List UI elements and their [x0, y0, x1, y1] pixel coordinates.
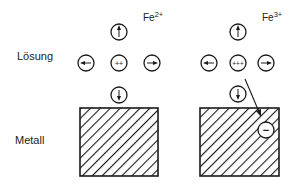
electron-icon: −: [258, 122, 274, 138]
svg-text:+++: +++: [232, 60, 244, 67]
water-dipole-right-icon: [144, 55, 160, 71]
fe2-ion-icon: ++: [111, 55, 127, 71]
water-dipole-left-icon: [78, 55, 94, 71]
svg-text:Fe3+: Fe3+: [262, 10, 283, 23]
water-dipole-left-icon: [201, 55, 217, 71]
metal-block-left: [80, 108, 158, 176]
svg-text:−: −: [263, 124, 269, 136]
fe3-ion-icon: +++: [230, 55, 246, 71]
water-dipole-down-icon: [230, 86, 246, 102]
water-dipole-right-icon: [258, 55, 274, 71]
fe2-ion-label: Fe2+: [143, 10, 164, 23]
solution-label: Lösung: [17, 50, 53, 62]
metal-block-right: [200, 108, 279, 176]
fe-ion-diagram: Lösung Metall Fe2+ ++ Fe3+: [0, 0, 302, 187]
water-dipole-up-icon: [111, 24, 127, 40]
water-dipole-down-icon: [111, 87, 127, 103]
water-dipole-up-icon: [230, 24, 246, 40]
metal-label: Metall: [15, 134, 44, 146]
svg-text:Fe2+: Fe2+: [143, 10, 164, 23]
fe3-ion-label: Fe3+: [262, 10, 283, 23]
svg-text:++: ++: [115, 60, 123, 67]
